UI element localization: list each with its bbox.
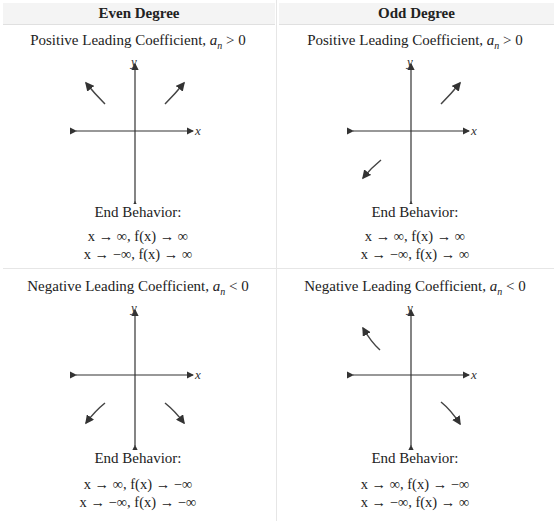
arrow-left-up-icon	[363, 328, 380, 350]
end-behavior-table: Even Degree Odd Degree Positive Leading …	[0, 0, 557, 521]
limit-line-1: x → ∞, f(x) → −∞	[0, 476, 276, 493]
cell-even-positive: Positive Leading Coefficient, an > 0 y x…	[0, 32, 276, 268]
limit-line-2: x → −∞, f(x) → ∞	[277, 494, 553, 511]
y-axis-label: y	[129, 54, 137, 69]
condition-label: Negative Leading Coefficient, an < 0	[277, 278, 553, 297]
limit-line-1: x → ∞, f(x) → −∞	[277, 476, 553, 493]
arrow-right-up-icon	[165, 83, 184, 104]
cell-even-negative: Negative Leading Coefficient, an < 0 y x…	[0, 278, 276, 521]
limit-line-2: x → −∞, f(x) → −∞	[0, 494, 276, 511]
limit-line-2: x → −∞, f(x) → ∞	[277, 246, 553, 263]
x-axis-label: x	[194, 123, 201, 138]
condition-label: Positive Leading Coefficient, an > 0	[277, 32, 553, 51]
limit-line-1: x → ∞, f(x) → ∞	[277, 228, 553, 245]
graph-even-negative: y x	[0, 300, 276, 450]
graph-odd-positive: y x	[277, 54, 553, 204]
arrow-right-down-icon	[165, 403, 184, 423]
graph-odd-negative: y x	[277, 300, 553, 450]
end-behavior-label: End Behavior:	[0, 450, 276, 467]
cell-odd-negative: Negative Leading Coefficient, an < 0 y x…	[277, 278, 553, 521]
arrow-right-down-icon	[441, 402, 460, 424]
svg-text:y: y	[405, 54, 413, 69]
arrow-right-up-icon	[441, 83, 460, 104]
svg-text:y: y	[405, 300, 413, 315]
row-divider	[3, 268, 554, 269]
end-behavior-label: End Behavior:	[277, 204, 553, 221]
svg-text:x: x	[470, 367, 477, 382]
limit-line-1: x → ∞, f(x) → ∞	[0, 228, 276, 245]
graph-even-positive: y x	[0, 54, 276, 204]
arrow-left-up-icon	[86, 83, 105, 104]
svg-text:y: y	[129, 300, 137, 315]
condition-label: Positive Leading Coefficient, an > 0	[0, 32, 276, 51]
header-even-degree: Even Degree	[3, 3, 275, 25]
condition-label: Negative Leading Coefficient, an < 0	[0, 278, 276, 297]
cell-odd-positive: Positive Leading Coefficient, an > 0 y x…	[277, 32, 553, 268]
arrow-left-down-icon	[86, 403, 105, 423]
end-behavior-label: End Behavior:	[277, 450, 553, 467]
header-odd-degree: Odd Degree	[279, 3, 554, 25]
end-behavior-label: End Behavior:	[0, 204, 276, 221]
limit-line-2: x → −∞, f(x) → ∞	[0, 246, 276, 263]
arrow-left-down-icon	[363, 160, 381, 178]
svg-text:x: x	[194, 367, 201, 382]
svg-text:x: x	[470, 123, 477, 138]
